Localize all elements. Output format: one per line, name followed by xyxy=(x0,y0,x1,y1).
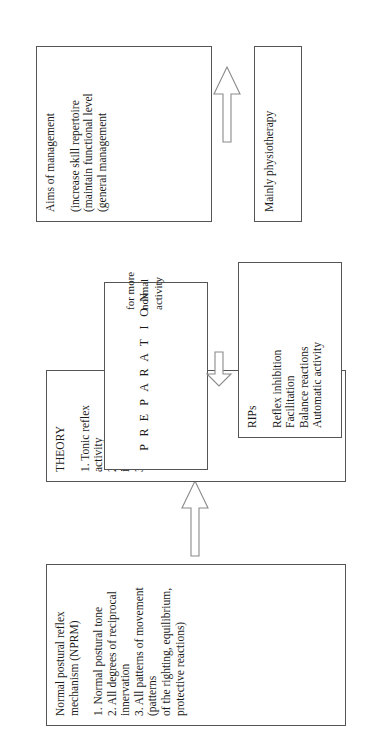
rips-item-4: Automatic activity xyxy=(311,272,325,428)
diagram-canvas: Normal postural reflex mechanism (NPRM) … xyxy=(0,0,378,738)
acronym-letter-6: R xyxy=(137,365,152,380)
rotated-page: Normal postural reflex mechanism (NPRM) … xyxy=(0,0,378,738)
theory-item-1: 1. Tonic reflex activity xyxy=(79,380,106,472)
box-rips: RIPs Reflex inhibition Facilitation Bala… xyxy=(238,262,342,438)
box-mainly-physiotherapy: Mainly physiotherapy xyxy=(254,46,302,222)
nprm-item-1: 1. Normal postural tone xyxy=(92,574,106,716)
preparation-purpose-text: for more normal activity xyxy=(124,272,165,310)
aims-item-1: (increase skill repertoire xyxy=(69,56,83,212)
rips-title: RIPs xyxy=(246,272,260,428)
acronym-letter-2: R xyxy=(137,425,152,440)
theory-title: THEORY xyxy=(54,380,68,472)
acronym-letter-3: E xyxy=(137,410,152,425)
aims-item-3: (general management xyxy=(96,56,110,212)
box-normal-postural-reflex-mechanism: Normal postural reflex mechanism (NPRM) … xyxy=(46,564,346,726)
box-aims-of-management: Aims of management (increase skill reper… xyxy=(36,46,212,222)
acronym-letter-4: P xyxy=(137,395,152,410)
nprm-item-3: 3. All patterns of movement (patterns of… xyxy=(133,574,187,716)
nprm-item-list: 1. Normal postural tone 2. All degrees o… xyxy=(92,574,187,716)
acronym-letter-5: A xyxy=(137,380,152,395)
acronym-letter-9: I xyxy=(137,320,152,335)
acronym-letter-8: T xyxy=(137,335,152,350)
nprm-item-2: 2. All degrees of reciprocal innervation xyxy=(106,574,133,716)
aims-item-2: (maintain functional level xyxy=(82,56,96,212)
arrow-aims-to-physiotherapy xyxy=(212,66,242,142)
mainly-physiotherapy-title: Mainly physiotherapy xyxy=(262,56,276,212)
aims-title: Aims of management xyxy=(44,56,58,212)
rips-item-1: Reflex inhibition xyxy=(271,272,285,428)
nprm-title: Normal postural reflex mechanism (NPRM) xyxy=(54,574,81,716)
box-preparation xyxy=(104,282,208,470)
rips-item-3: Balance reactions xyxy=(298,272,312,428)
arrow-nprm-to-theory xyxy=(180,480,210,556)
arrow-rips-to-preparation xyxy=(206,352,232,386)
rips-item-list: Reflex inhibition Facilitation Balance r… xyxy=(271,272,325,428)
acronym-letter-7: A xyxy=(137,350,152,365)
aims-item-list: (increase skill repertoire (maintain fun… xyxy=(69,56,110,212)
acronym-letter-1: P xyxy=(137,440,152,455)
rips-item-2: Facilitation xyxy=(284,272,298,428)
preparation-acronym: P R E P A R A T I O N xyxy=(137,290,152,455)
